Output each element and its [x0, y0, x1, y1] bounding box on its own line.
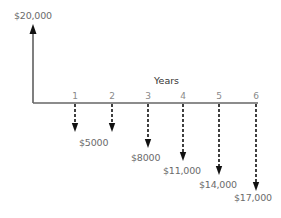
- inflow-arrow: [30, 24, 37, 103]
- inflow-label: $20,000: [14, 10, 52, 21]
- outflow-label-6: $17,000: [234, 192, 272, 203]
- cash-flow-canvas: [0, 0, 281, 218]
- outflow-arrow-2: [109, 104, 115, 132]
- axis-title-years: Years: [154, 75, 179, 86]
- outflow-arrow-4: [180, 104, 186, 161]
- outflow-label-1-2: $5000: [79, 137, 108, 148]
- outflow-label-3: $8000: [131, 152, 160, 163]
- tick-label-3: 3: [145, 91, 151, 101]
- outflow-arrow-3: [145, 104, 151, 148]
- outflow-arrow-5: [216, 104, 222, 175]
- tick-label-5: 5: [216, 91, 222, 101]
- outflow-arrow-6: [253, 104, 259, 191]
- tick-label-2: 2: [109, 91, 115, 101]
- outflow-label-5: $14,000: [199, 179, 237, 190]
- tick-label-1: 1: [72, 91, 78, 101]
- tick-label-6: 6: [253, 91, 259, 101]
- outflow-arrow-1: [72, 104, 78, 132]
- tick-label-4: 4: [180, 91, 186, 101]
- outflow-label-4: $11,000: [163, 165, 201, 176]
